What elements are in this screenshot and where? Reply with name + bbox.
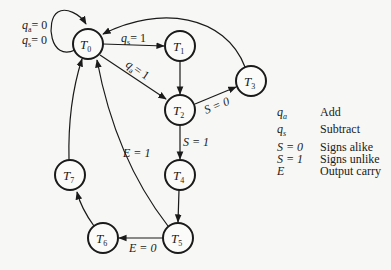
edge-label-t2-t3: S = 0	[202, 94, 231, 117]
state-node-t2: T2	[165, 95, 195, 125]
edge-t5-t0	[97, 60, 168, 226]
legend-item-signs-unlike: S = 1 Signs unlike	[277, 153, 381, 165]
edge-label-t2-t4: S = 1	[183, 135, 209, 149]
legend: qa Add qs Subtract S = 0 Signs alike S =…	[277, 106, 381, 177]
edge-label-t0-t1: qs= 1	[121, 31, 146, 47]
state-node-t0: T0	[73, 29, 103, 59]
edge-t4-t5	[178, 190, 179, 222]
state-node-t5: T5	[163, 223, 193, 253]
legend-item-output-carry: E Output carry	[277, 165, 381, 177]
legend-item-subtract: qs Subtract	[277, 123, 381, 140]
self-loop-label-qa: qa= 0	[22, 18, 47, 34]
edge-t6-t7	[77, 192, 94, 226]
legend-item-signs-alike: S = 0 Signs alike	[277, 141, 381, 153]
state-node-t6: T6	[88, 223, 118, 253]
state-node-t3: T3	[236, 66, 266, 96]
state-node-t7: T7	[55, 160, 85, 190]
self-loop-label-qs: qs= 0	[22, 33, 47, 49]
edge-t7-t0	[69, 59, 82, 160]
edge-label-t5-t0: E = 1	[122, 146, 150, 160]
legend-item-add: qa Add	[277, 106, 381, 123]
edge-label-t5-t6: E = 0	[128, 241, 156, 255]
state-node-t4: T4	[165, 160, 195, 190]
state-node-t1: T1	[165, 31, 195, 61]
